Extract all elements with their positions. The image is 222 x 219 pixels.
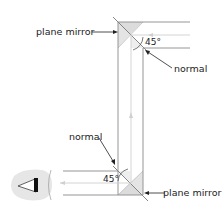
periscope-tube	[63, 22, 190, 195]
light-ray	[60, 35, 190, 183]
top-angle-label: 45°	[145, 37, 161, 47]
bottom-normal-label: normal	[69, 131, 102, 142]
bottom-mirror-label: plane mirror	[163, 187, 222, 198]
ray-arrow-icons	[60, 33, 153, 185]
bottom-angle-label: 45°	[103, 174, 119, 184]
eye-icon	[11, 170, 52, 201]
periscope-diagram: plane mirror normal 45° normal 45° plane…	[0, 0, 222, 219]
top-normal-label: normal	[174, 63, 207, 74]
label-pointers	[92, 30, 172, 195]
top-mirror-label: plane mirror	[36, 26, 95, 37]
